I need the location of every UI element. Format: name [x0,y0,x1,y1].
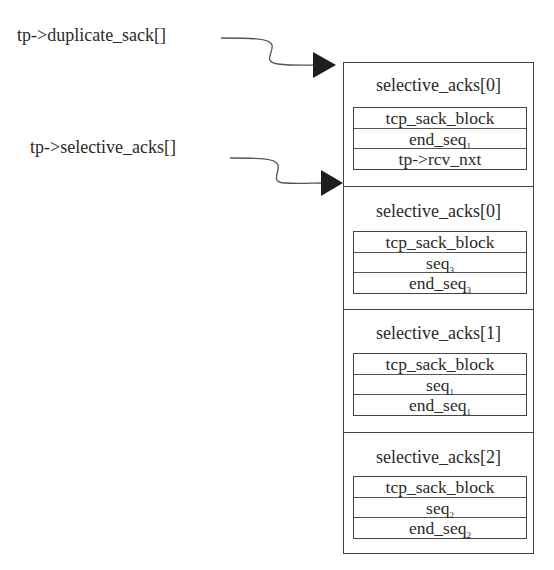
array-entry-duplicate: selective_acks[0] tcp_sack_block end_seq… [344,63,533,187]
row-struct-name: tcp_sack_block [354,232,526,253]
entry-title: selective_acks[1] [344,324,533,342]
selective-acks-array: selective_acks[0] tcp_sack_block end_seq… [343,62,534,554]
arrow-selective-acks [230,158,343,196]
entry-title: selective_acks[0] [344,202,533,220]
arrowhead-icon [321,170,343,196]
tcp-sack-block: tcp_sack_block seq1 end_seq1 [353,353,527,416]
tcp-sack-block: tcp_sack_block seq3 end_seq3 [353,231,527,294]
entry-title: selective_acks[2] [344,448,533,466]
arrow-duplicate-sack [221,38,336,78]
row-field: seq1 [354,375,526,396]
arrowhead-icon [313,52,336,78]
row-field: end_seq2 [354,518,526,538]
tcp-sack-block: tcp_sack_block seq2 end_seq2 [353,476,527,539]
tcp-sack-block: tcp_sack_block end_seq1 tp->rcv_nxt [353,107,527,170]
row-field: seq3 [354,253,526,274]
row-struct-name: tcp_sack_block [354,354,526,375]
array-entry-0: selective_acks[0] tcp_sack_block seq3 en… [344,187,533,309]
row-field: end_seq1 [354,129,526,150]
entry-title: selective_acks[0] [344,76,533,94]
row-field: end_seq3 [354,273,526,293]
row-struct-name: tcp_sack_block [354,477,526,498]
row-field: tp->rcv_nxt [354,149,526,169]
row-struct-name: tcp_sack_block [354,108,526,129]
array-entry-1: selective_acks[1] tcp_sack_block seq1 en… [344,310,533,432]
array-entry-2: selective_acks[2] tcp_sack_block seq2 en… [344,433,533,553]
row-field: seq2 [354,498,526,519]
row-field: end_seq1 [354,395,526,415]
